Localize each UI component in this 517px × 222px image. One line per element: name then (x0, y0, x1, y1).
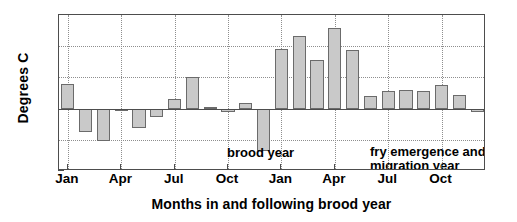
x-tick-mark (227, 164, 228, 170)
gridline-horizontal (59, 77, 484, 78)
y-axis-title: Degrees C (15, 18, 31, 158)
plot-inner: brood year fry emergence and migration y… (59, 15, 484, 169)
bar (150, 109, 163, 118)
x-tick-mark (174, 164, 175, 170)
gridline-vertical (121, 15, 122, 169)
plot-area: brood year fry emergence and migration y… (58, 14, 485, 170)
bar (310, 60, 323, 108)
gridline-horizontal (59, 140, 484, 141)
bar (275, 49, 288, 108)
bar (453, 95, 466, 109)
bar (186, 77, 199, 109)
x-tick-label: Oct (197, 172, 257, 186)
x-tick-mark (67, 164, 68, 170)
x-tick-label: Apr (90, 172, 150, 186)
x-axis-title: Months in and following brood year (58, 196, 485, 212)
chart-figure: Degrees C 6420-2-4 brood year fry emerge… (0, 0, 517, 222)
bar (293, 36, 306, 109)
bar (346, 50, 359, 109)
bar (79, 109, 92, 132)
bar (61, 84, 74, 109)
bar (328, 28, 341, 108)
x-tick-mark (387, 164, 388, 170)
x-tick-label: Jan (37, 172, 97, 186)
bar (399, 90, 412, 109)
x-tick-label: Oct (411, 172, 471, 186)
x-tick-mark (120, 164, 121, 170)
bar (364, 96, 377, 108)
bar (168, 99, 181, 108)
x-tick-mark (441, 164, 442, 170)
x-tick-mark (334, 164, 335, 170)
bar (97, 109, 110, 142)
bar (132, 109, 145, 129)
zero-line (59, 109, 484, 110)
bar (382, 91, 395, 108)
x-tick-mark (280, 164, 281, 170)
gridline-horizontal (59, 46, 484, 47)
bar (417, 91, 430, 108)
x-tick-label: Apr (304, 172, 364, 186)
annotation-brood-year: brood year (227, 146, 294, 160)
x-tick-label: Jul (144, 172, 204, 186)
x-tick-label: Jul (357, 172, 417, 186)
gridline-vertical (175, 15, 176, 169)
x-tick-label: Jan (250, 172, 310, 186)
bar (435, 85, 448, 108)
